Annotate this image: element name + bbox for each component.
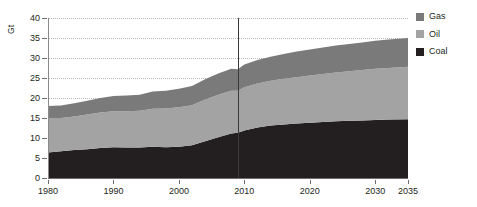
- plot-area: [48, 18, 408, 178]
- gridline-0: [48, 178, 408, 179]
- y-tick-mark-0: [42, 178, 47, 179]
- y-tick-mark-40: [42, 18, 47, 19]
- x-tick-mark-2035: [408, 180, 409, 184]
- x-axis-tick-labels: 1980199020002010202020302035: [0, 180, 477, 202]
- stacked-area-chart: Gt 0510152025303540 19801990200020102020…: [0, 0, 477, 207]
- y-axis-line: [48, 18, 49, 178]
- y-tick-label-10: 10: [30, 133, 40, 143]
- x-tick-mark-1990: [113, 180, 114, 184]
- legend-label-gas: Gas: [429, 12, 446, 21]
- x-tick-label-2020: 2020: [300, 186, 320, 196]
- y-tick-label-30: 30: [30, 53, 40, 63]
- x-tick-mark-1980: [48, 180, 49, 184]
- legend-label-coal: Coal: [429, 47, 448, 56]
- y-tick-mark-10: [42, 138, 47, 139]
- legend-swatch-gas: [416, 13, 424, 21]
- x-tick-label-1990: 1990: [103, 186, 123, 196]
- y-tick-label-40: 40: [30, 13, 40, 23]
- y-tick-mark-30: [42, 58, 47, 59]
- legend-item-coal[interactable]: Coal: [416, 47, 476, 56]
- y-tick-mark-15: [42, 118, 47, 119]
- x-tick-mark-2000: [179, 180, 180, 184]
- area-series-group: [48, 18, 408, 178]
- legend-swatch-coal: [416, 48, 424, 56]
- x-tick-label-2030: 2030: [365, 186, 385, 196]
- y-tick-mark-20: [42, 98, 47, 99]
- y-tick-label-15: 15: [30, 113, 40, 123]
- current-year-divider-line: [238, 18, 239, 178]
- legend-label-oil: Oil: [429, 30, 440, 39]
- x-tick-mark-2020: [310, 180, 311, 184]
- area-series-svg: [48, 18, 408, 178]
- y-tick-mark-5: [42, 158, 47, 159]
- y-tick-label-35: 35: [30, 33, 40, 43]
- legend-item-oil[interactable]: Oil: [416, 30, 476, 39]
- y-tick-mark-25: [42, 78, 47, 79]
- x-tick-label-1980: 1980: [38, 186, 58, 196]
- x-tick-mark-2010: [244, 180, 245, 184]
- y-tick-mark-35: [42, 38, 47, 39]
- legend-swatch-oil: [416, 30, 424, 38]
- x-tick-label-2000: 2000: [169, 186, 189, 196]
- x-tick-label-2035: 2035: [398, 186, 418, 196]
- x-tick-mark-2030: [375, 180, 376, 184]
- x-tick-label-2010: 2010: [234, 186, 254, 196]
- y-tick-label-25: 25: [30, 73, 40, 83]
- y-tick-label-5: 5: [35, 153, 40, 163]
- legend-item-gas[interactable]: Gas: [416, 12, 476, 21]
- y-tick-label-20: 20: [30, 93, 40, 103]
- legend: GasOilCoal: [416, 12, 476, 65]
- y-axis-tick-labels: 0510152025303540: [0, 0, 46, 207]
